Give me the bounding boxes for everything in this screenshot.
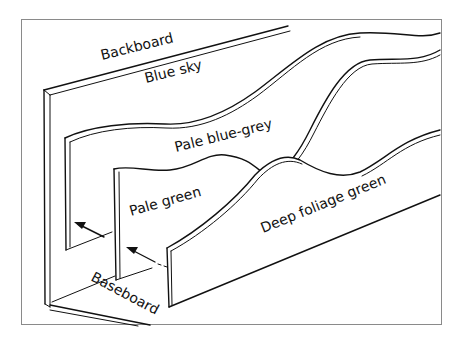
label-backboard: Backboard — [99, 29, 175, 63]
diagram-canvas: Backboard Blue sky Pale blue-grey Pale g… — [0, 0, 460, 343]
label-blue-sky: Blue sky — [143, 56, 204, 86]
